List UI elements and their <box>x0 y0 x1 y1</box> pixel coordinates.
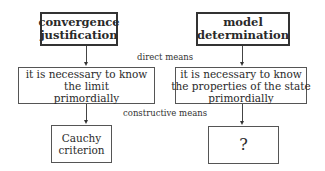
box-text-line: justification <box>40 29 117 42</box>
box-text-line: criterion <box>58 144 104 156</box>
box-text-line: primordially <box>54 92 119 104</box>
connector-line <box>86 104 87 121</box>
direct-means-label: direct means <box>137 52 193 62</box>
arrow-down-icon <box>84 120 88 124</box>
arrow-down-icon <box>84 62 88 66</box>
know-limit-box: it is necessary to know the limit primor… <box>18 67 155 104</box>
arrow-down-icon <box>240 121 244 125</box>
box-text-line: Cauchy <box>62 132 102 144</box>
convergence-justification-box: convergence justification <box>40 12 118 46</box>
box-text-line: the limit <box>64 80 109 92</box>
connector-line <box>86 46 87 63</box>
box-text-line: determination <box>197 29 289 42</box>
arrow-down-icon <box>240 62 244 66</box>
unknown-box: ? <box>208 126 279 164</box>
box-text-line: it is necessary to know <box>180 68 302 80</box>
model-determination-box: model determination <box>196 12 290 46</box>
box-text-line: primordially <box>208 92 273 104</box>
cauchy-criterion-box: Cauchy criterion <box>51 125 112 163</box>
box-text-line: it is necessary to know <box>26 68 148 80</box>
connector-line <box>242 46 243 63</box>
know-state-properties-box: it is necessary to know the properties o… <box>175 67 307 104</box>
connector-line <box>242 104 243 122</box>
box-text-line: the properties of the state <box>171 80 310 92</box>
question-mark: ? <box>239 139 248 151</box>
constructive-means-label: constructive means <box>123 108 207 118</box>
